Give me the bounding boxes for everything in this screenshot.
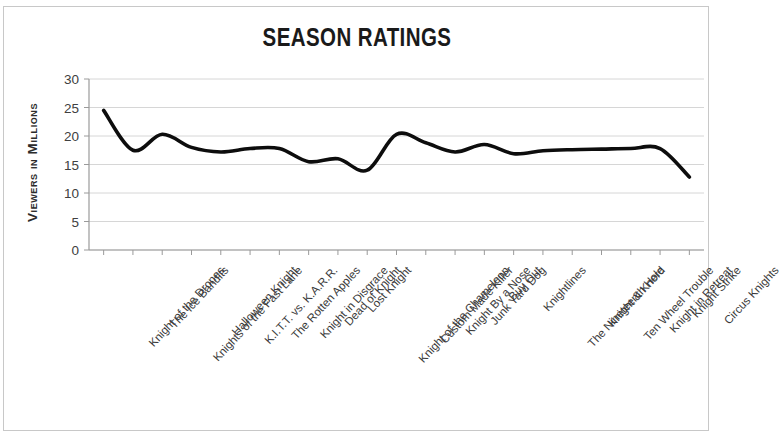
y-axis-tick-labels: 051015202530: [64, 72, 79, 258]
line-chart-plot: 051015202530: [4, 7, 710, 432]
chart-container: SEASON RATINGS Viewers in Millions 05101…: [3, 6, 709, 431]
y-tick-label: 20: [64, 129, 79, 144]
y-tick-label: 0: [71, 243, 79, 258]
y-tick-label: 10: [64, 186, 79, 201]
y-tick-label: 15: [64, 158, 79, 173]
y-tick-label: 5: [71, 215, 79, 230]
x-axis-tick-marks: [104, 250, 690, 255]
gridlines: [84, 79, 704, 250]
ratings-data-line: [104, 110, 690, 177]
y-tick-label: 25: [64, 101, 79, 116]
x-axis-label: Circus Knights: [722, 264, 781, 326]
y-tick-label: 30: [64, 72, 79, 87]
